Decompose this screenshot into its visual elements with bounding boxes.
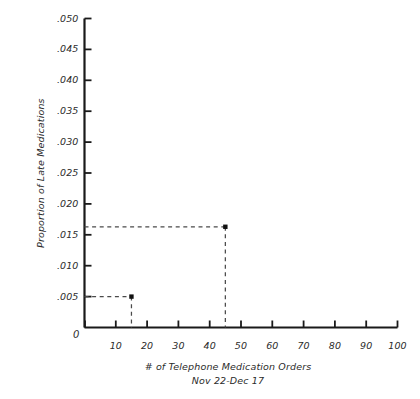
leader-lines-group	[85, 227, 226, 328]
x-tick-label: 100	[378, 341, 418, 351]
axis-ticks-group	[85, 19, 398, 328]
x-axis-title: # of Telephone Medication Orders	[0, 362, 420, 372]
y-tick-label: .045	[29, 44, 79, 54]
y-tick-label: .010	[29, 261, 79, 271]
y-axis-title: Proportion of Late Medications	[36, 98, 46, 248]
axes-group	[85, 19, 398, 328]
x-axis-subtitle: Nov 22-Dec 17	[0, 376, 420, 386]
y-tick-label: .040	[29, 75, 79, 85]
axis-origin-label: 0	[73, 330, 79, 340]
y-tick-label: .050	[29, 14, 79, 24]
data-point-marker	[223, 225, 227, 229]
y-tick-label: .005	[29, 292, 79, 302]
data-markers-group	[129, 225, 227, 299]
chart-figure: .005.010.015.020.025.030.035.040.045.050…	[0, 0, 420, 399]
data-point-marker	[129, 294, 133, 298]
